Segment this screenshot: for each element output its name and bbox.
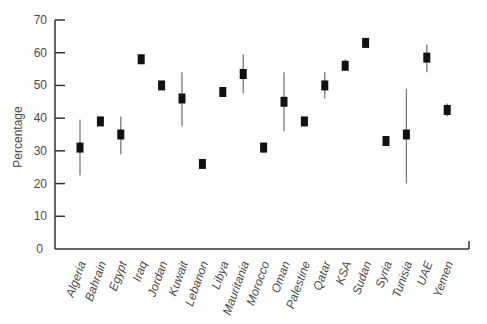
data-point-uae xyxy=(423,45,430,73)
point-marker xyxy=(158,80,165,90)
data-point-sudan xyxy=(362,38,369,48)
data-point-ksa xyxy=(342,59,349,71)
data-point-oman xyxy=(281,72,288,131)
point-marker xyxy=(219,87,226,97)
point-marker xyxy=(260,143,267,153)
point-marker xyxy=(179,94,186,104)
data-point-yemen xyxy=(444,103,451,116)
x-category-label: KSA xyxy=(333,259,354,286)
point-marker xyxy=(97,116,104,126)
y-axis: 010203040506070 xyxy=(34,13,65,256)
data-point-algeria xyxy=(77,120,84,176)
data-point-libya xyxy=(219,87,226,97)
y-tick-label: 30 xyxy=(34,144,48,158)
data-point-tunisia xyxy=(403,89,410,184)
data-point-bahrain xyxy=(97,116,104,126)
point-marker xyxy=(77,143,84,153)
point-marker xyxy=(383,136,390,146)
data-point-iraq xyxy=(138,54,145,64)
data-point-kuwait xyxy=(179,72,186,126)
point-marker xyxy=(342,61,349,71)
data-point-morocco xyxy=(260,143,267,153)
point-marker xyxy=(403,130,410,140)
data-point-egypt xyxy=(117,117,124,155)
data-point-mauritania xyxy=(240,54,247,93)
y-tick-label: 0 xyxy=(36,242,43,256)
y-tick-label: 40 xyxy=(34,111,48,125)
data-point-syria xyxy=(383,136,390,146)
data-point-jordan xyxy=(158,80,165,90)
y-tick-label: 70 xyxy=(34,13,48,27)
data-point-qatar xyxy=(321,72,328,98)
data-point-lebanon xyxy=(199,159,206,169)
y-tick-label: 10 xyxy=(34,209,48,223)
y-tick-label: 50 xyxy=(34,78,48,92)
point-marker xyxy=(281,97,288,107)
point-marker xyxy=(444,105,451,115)
point-marker xyxy=(199,159,206,169)
y-tick-label: 20 xyxy=(34,177,48,191)
x-category-label: Syria xyxy=(372,259,395,290)
error-bar-chart: 010203040506070 AlgeriaBahrainEgyptIraqJ… xyxy=(0,0,487,324)
point-marker xyxy=(362,38,369,48)
point-marker xyxy=(240,69,247,79)
data-point-palestine xyxy=(301,116,308,126)
y-tick-label: 60 xyxy=(34,46,48,60)
x-category-label: Egypt xyxy=(106,259,130,293)
point-marker xyxy=(321,80,328,90)
point-marker xyxy=(138,54,145,64)
point-marker xyxy=(117,130,124,140)
x-axis: AlgeriaBahrainEgyptIraqJordanKuwaitLeban… xyxy=(55,241,469,317)
x-category-label: Iraq xyxy=(130,259,150,284)
point-marker xyxy=(423,53,430,63)
data-series xyxy=(77,38,451,184)
x-category-label: Qatar xyxy=(310,258,334,292)
x-category-label: UAE xyxy=(414,258,436,287)
point-marker xyxy=(301,116,308,126)
y-axis-title: Percentage xyxy=(11,106,25,168)
